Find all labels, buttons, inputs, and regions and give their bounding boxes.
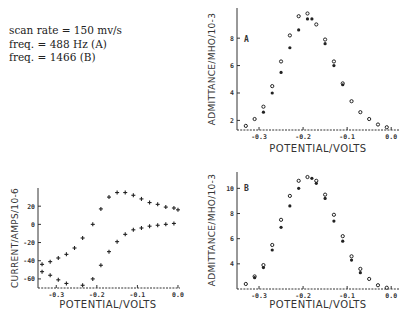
data-point — [324, 42, 327, 45]
data-point — [324, 197, 327, 200]
x-tick-label: 0.0 — [172, 291, 184, 299]
y-tick-label: 4 — [230, 89, 234, 97]
x-tick-label: -0.3 — [48, 291, 64, 299]
data-point — [48, 260, 52, 264]
data-point — [332, 60, 335, 63]
data-point — [81, 236, 85, 240]
y-axis-label: CURRENT/AMPS/10-6 — [10, 188, 20, 288]
data-point — [148, 224, 152, 228]
data-point — [164, 205, 168, 209]
series-reverse-scan — [40, 221, 176, 287]
data-point — [131, 193, 135, 197]
data-point — [332, 219, 335, 222]
data-point — [310, 17, 313, 20]
data-point — [324, 38, 327, 41]
data-point — [64, 252, 68, 256]
data-point — [156, 202, 160, 206]
data-point — [279, 218, 282, 221]
data-point — [315, 182, 318, 185]
data-point — [123, 191, 127, 195]
data-point — [332, 64, 335, 67]
data-point — [172, 221, 176, 225]
y-tick-label: 10 — [226, 185, 234, 193]
data-point — [73, 246, 77, 250]
series-set-2 — [262, 17, 344, 113]
data-point — [288, 194, 291, 197]
data-point — [310, 177, 313, 180]
data-point — [64, 281, 68, 285]
data-point — [341, 240, 344, 243]
y-tick-label: 2 — [230, 117, 234, 125]
data-point — [262, 105, 265, 108]
data-point — [297, 15, 300, 18]
data-point — [244, 282, 247, 285]
panel-label: A — [244, 35, 249, 44]
data-point — [306, 17, 309, 20]
data-point — [350, 258, 353, 261]
y-axis-label: ADMITTANCE/MHO/10-3 — [207, 174, 217, 286]
data-point — [40, 270, 44, 274]
data-point — [91, 222, 95, 226]
data-point — [297, 28, 300, 31]
data-point — [56, 278, 60, 282]
series-set-2 — [253, 177, 362, 280]
data-point — [99, 263, 103, 267]
data-point — [156, 223, 160, 227]
x-axis-label: POTENTIAL/VOLTS — [269, 299, 366, 310]
x-tick-label: -0.1 — [130, 291, 146, 299]
data-point — [115, 240, 119, 244]
data-point — [297, 179, 300, 182]
x-tick-label: -0.3 — [251, 133, 267, 141]
data-point — [350, 255, 353, 258]
data-point — [131, 228, 135, 232]
data-point — [81, 283, 85, 287]
data-point — [253, 276, 256, 279]
data-point — [324, 193, 327, 196]
data-point — [385, 286, 388, 289]
data-point — [271, 248, 274, 251]
data-point — [350, 100, 353, 103]
series-forward-scan — [40, 191, 180, 267]
data-point — [262, 266, 265, 269]
panel-label: B — [244, 184, 249, 193]
data-point — [368, 117, 371, 120]
data-point — [279, 71, 282, 74]
x-tick-label: -0.1 — [339, 133, 355, 141]
data-point — [288, 204, 291, 207]
data-point — [306, 175, 309, 178]
data-point — [244, 124, 247, 127]
data-point — [279, 60, 282, 63]
data-point — [123, 232, 127, 236]
data-point — [107, 250, 111, 254]
data-point — [56, 256, 60, 260]
data-point — [341, 235, 344, 238]
y-tick-label: -40 — [23, 257, 35, 265]
chart-current-cv: -0.3-0.2-0.10.0200-20-40-60POTENTIAL/VOL… — [10, 188, 184, 310]
series-set-1 — [244, 12, 388, 129]
data-point — [279, 226, 282, 229]
y-axis-label: ADMITTANCE/MHO/10-3 — [207, 13, 217, 125]
data-point — [91, 277, 95, 281]
data-point — [271, 85, 274, 88]
x-tick-label: -0.2 — [295, 133, 311, 141]
data-point — [385, 126, 388, 129]
chart-admittance-B: -0.3-0.2-0.10.046810POTENTIAL/VOLTSADMIT… — [207, 172, 400, 310]
series-set-1 — [244, 175, 388, 289]
x-tick-label: 0.0 — [385, 133, 397, 141]
y-tick-label: -60 — [23, 275, 35, 283]
y-tick-label: 8 — [230, 35, 234, 43]
x-axis-label: POTENTIAL/VOLTS — [59, 299, 156, 310]
y-tick-label: 4 — [230, 260, 234, 268]
x-tick-label: 0.0 — [385, 292, 397, 300]
y-tick-label: 8 — [230, 210, 234, 218]
data-point — [306, 12, 309, 15]
data-point — [139, 197, 143, 201]
data-point — [288, 46, 291, 49]
data-point — [48, 273, 52, 277]
data-point — [172, 206, 176, 210]
data-point — [332, 213, 335, 216]
x-tick-label: -0.3 — [251, 292, 267, 300]
data-point — [164, 222, 168, 226]
y-tick-label: 0 — [31, 221, 35, 229]
data-point — [139, 226, 143, 230]
